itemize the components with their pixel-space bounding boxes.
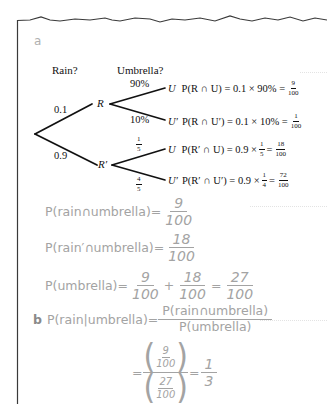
fraction: 9 100 [128, 270, 163, 301]
node-u-prime: U′ [168, 175, 178, 186]
node-u: U [168, 83, 176, 94]
outcome-rprime-u: U P(R′ ∩ U) = 0.9 × 1 5 = 18 100 [168, 141, 287, 158]
eq-factor: 1 5 [259, 141, 265, 158]
fraction: 9 100 [161, 196, 196, 227]
part-b-label: b [33, 312, 42, 327]
branch-prob-rprime-u-prime: 4 5 [136, 176, 142, 193]
branch-prob-no-rain: 0.9 [54, 150, 67, 161]
eq-lhs: P(R ∩ U) = 0.1 × 90% = [182, 83, 286, 94]
branch-prob-rprime-u: 1 5 [136, 136, 142, 153]
eq-p-rain-and-umbrella: P(rain∩umbrella)= 9 100 [45, 196, 196, 227]
node-u: U [168, 144, 176, 155]
eq-conditional-result: = ( 9 100 ) ( 27 100 ) = 1 3 [132, 342, 217, 403]
branch-prob-r-u: 90% [130, 78, 149, 89]
fraction: 18 100 [175, 270, 210, 301]
eq-lhs: P(R′ ∩ U′) = 0.9 × [182, 175, 260, 186]
eq-result: 1 100 [290, 113, 303, 130]
outcome-rprime-u-prime: U′ P(R′ ∩ U′) = 0.9 × 1 4 = 72 100 [168, 172, 290, 189]
outcome-r-u: U P(R ∩ U) = 0.1 × 90% = 9 100 [168, 80, 300, 97]
fraction: 18 100 [164, 232, 199, 263]
outcome-r-u-prime: U′ P(R ∩ U′) = 0.1 × 10% = 1 100 [168, 113, 302, 130]
eq-result: 9 100 [287, 80, 300, 97]
fraction: 27 100 [222, 270, 257, 301]
eq-result: 18 100 [274, 141, 287, 158]
node-u-prime: U′ [168, 116, 178, 127]
branch-prob-rain: 0.1 [54, 104, 67, 115]
branch-prob-r-u-prime: 10% [130, 114, 149, 125]
fraction: 1 3 [201, 357, 218, 388]
eq-lhs: P(R ∩ U′) = 0.1 × 10% = [182, 116, 288, 127]
compound-fraction: ( 9 100 ) ( 27 100 ) [143, 342, 188, 403]
eq-factor: 1 4 [262, 172, 268, 189]
fraction: P(rain∩umbrella) P(umbrella) [158, 305, 272, 333]
eq-conditional-prob: b P(rain|umbrella)= P(rain∩umbrella) P(u… [33, 305, 272, 333]
eq-p-umbrella: P(umbrella)= 9 100 + 18 100 = 27 100 [45, 270, 257, 301]
eq-p-norain-and-umbrella: P(rain′∩umbrella)= 18 100 [45, 232, 199, 263]
eq-result: 72 100 [277, 172, 290, 189]
eq-lhs: P(R′ ∩ U) = 0.9 × [182, 144, 257, 155]
node-r-prime: R′ [98, 158, 107, 170]
node-r: R [97, 97, 104, 109]
